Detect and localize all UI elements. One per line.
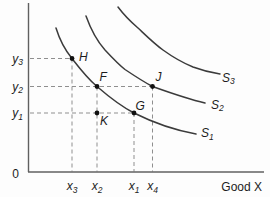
- point-label-H: H: [79, 50, 88, 64]
- x-tick-label-x2: x2: [91, 179, 103, 195]
- indifference-curve-S2: [86, 16, 205, 103]
- curve-label-S2: S2: [211, 98, 224, 114]
- x-tick-label-x3: x3: [66, 179, 78, 195]
- labels-layer: 0 Good X y3y2y1x3x2x1x4S1S2S3HFJKG: [11, 50, 262, 195]
- axis-layer: [28, 3, 264, 172]
- indifference-curve-S3: [118, 7, 220, 74]
- point-label-K: K: [100, 114, 109, 128]
- point-K: [95, 111, 100, 116]
- y-tick-label-y3: y3: [11, 52, 23, 68]
- curve-label-S1: S1: [201, 126, 214, 142]
- y-tick-label-y2: y2: [11, 80, 23, 96]
- point-label-J: J: [155, 70, 163, 84]
- indifference-curve-figure: 0 Good X y3y2y1x3x2x1x4S1S2S3HFJKG: [0, 0, 270, 197]
- point-label-G: G: [136, 99, 145, 113]
- curve-label-S3: S3: [222, 71, 235, 87]
- curves-layer: [56, 7, 220, 134]
- point-J: [150, 84, 155, 89]
- origin-label: 0: [12, 167, 19, 181]
- figure-svg: 0 Good X y3y2y1x3x2x1x4S1S2S3HFJKG: [0, 0, 270, 197]
- x-axis-title: Good X: [221, 180, 262, 194]
- x-tick-label-x4: x4: [146, 179, 158, 195]
- point-H: [70, 56, 75, 61]
- y-tick-label-y1: y1: [11, 106, 23, 122]
- point-label-F: F: [100, 70, 108, 84]
- point-F: [95, 84, 100, 89]
- x-tick-label-x1: x1: [128, 179, 140, 195]
- indifference-curve-S1: [56, 28, 196, 134]
